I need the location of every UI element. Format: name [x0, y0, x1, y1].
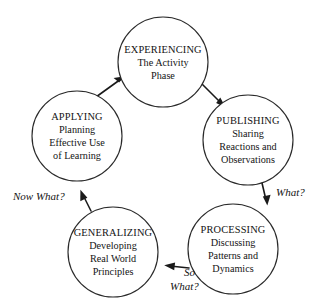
edge-applying-to-experiencing	[96, 76, 125, 97]
node-detail-line: Patterns and	[208, 250, 258, 261]
node-title: PUBLISHING	[216, 115, 280, 126]
node-detail-line: Effective Use	[49, 137, 105, 148]
edge-label-text: What?	[276, 186, 305, 198]
edge-label-now-what: Now What?	[12, 190, 65, 202]
edge-publishing-to-processing	[262, 183, 271, 206]
edge-label-text: Now What?	[12, 190, 65, 202]
node-detail-line: Sharing	[232, 128, 264, 139]
node-title: EXPERIENCING	[124, 44, 202, 55]
node-detail-line: Reactions and	[219, 141, 276, 152]
node-detail-line: Discussing	[211, 237, 256, 248]
node-detail-line: Observations	[221, 154, 275, 165]
node-title: GENERALIZING	[74, 227, 153, 238]
edge-generalizing-to-applying	[80, 190, 91, 211]
edge-line	[96, 79, 121, 97]
arrow-head-icon	[80, 190, 87, 201]
node-title: APPLYING	[51, 111, 103, 122]
node-title: PROCESSING	[200, 224, 265, 235]
node-detail-line: Developing	[89, 240, 137, 251]
node-circle-generalizing[interactable]	[68, 207, 158, 297]
node-circle-processing[interactable]	[188, 204, 278, 294]
node-detail-line: The Activity	[137, 57, 189, 68]
edge-label-so-what: So What?	[170, 266, 199, 292]
node-detail-line: Principles	[93, 266, 134, 277]
node-detail-line: Phase	[151, 70, 175, 81]
node-detail-line: Real World	[90, 253, 136, 264]
node-detail-line: Dynamics	[212, 263, 253, 274]
node-detail-line: of Learning	[53, 150, 101, 161]
node-circle-applying[interactable]	[32, 91, 122, 181]
edge-label-text: So	[184, 266, 196, 278]
node-detail-line: Planning	[59, 124, 95, 135]
node-circle-publishing[interactable]	[203, 95, 293, 185]
edge-label-what: What?	[276, 186, 305, 198]
arrow-head-icon	[164, 262, 175, 270]
experiential-learning-cycle-diagram: EXPERIENCING The Activity Phase PUBLISHI…	[0, 0, 322, 307]
edge-label-text: What?	[170, 280, 199, 292]
arrow-head-icon	[263, 195, 271, 206]
diagram-canvas: EXPERIENCING The Activity Phase PUBLISHI…	[0, 0, 322, 307]
